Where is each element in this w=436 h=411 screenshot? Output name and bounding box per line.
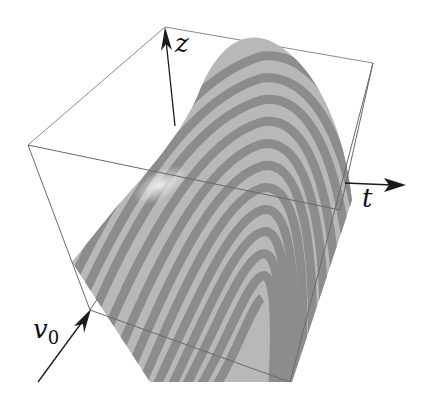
t-axis: t [345,178,406,213]
t-axis-label: t [362,183,373,213]
v0-axis: v0 [33,309,91,382]
z-axis-label: z [174,28,189,58]
v0-axis-label: v0 [33,314,59,348]
surface-plot-figure: z t [0,0,436,411]
z-axis: z [161,27,189,126]
